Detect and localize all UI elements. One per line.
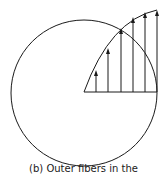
arrowhead-icon (155, 10, 159, 16)
arrowhead-icon (131, 17, 135, 23)
stress-distribution-diagram (0, 0, 167, 179)
cross-section-circle (11, 20, 157, 166)
figure-caption: (b) Outer fibers in the (0, 163, 167, 174)
arrowhead-icon (94, 70, 98, 76)
arrowhead-icon (106, 48, 110, 54)
